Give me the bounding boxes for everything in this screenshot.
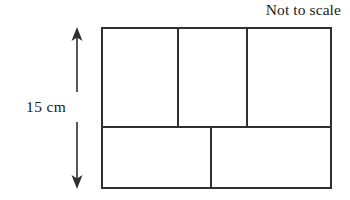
- figure-page: Not to scale 15 cm: [0, 0, 350, 200]
- outer-rectangle: [102, 28, 331, 188]
- not-to-scale-note: Not to scale: [266, 2, 341, 18]
- dimension-arrow-down: [72, 122, 83, 189]
- height-dimension-label: 15 cm: [26, 99, 66, 115]
- dimension-arrow-up: [72, 27, 83, 92]
